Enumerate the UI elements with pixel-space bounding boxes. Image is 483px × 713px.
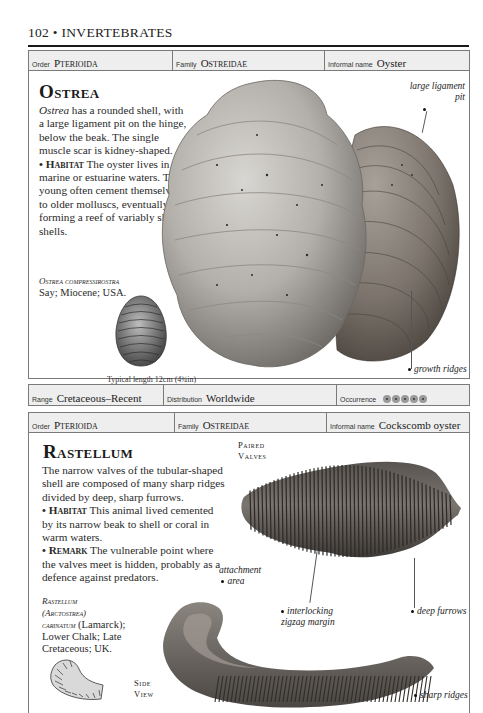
order-cell: Order Pterioida — [29, 51, 173, 70]
description: The narrow valves of the tubular-shaped … — [42, 464, 227, 585]
occurrence-dot — [383, 395, 391, 403]
family-value: Ostreidae — [203, 419, 250, 431]
label-leader-line — [411, 291, 412, 369]
ostrea-specimen-photo — [157, 75, 465, 375]
family-label: Family — [178, 423, 199, 430]
label-pointer-dot — [408, 368, 411, 371]
order-label: Order — [32, 61, 50, 68]
distribution-value: Worldwide — [206, 392, 255, 404]
informal-name-cell: Informal name Oyster — [325, 51, 469, 70]
entry-title: Rastellum — [43, 441, 133, 463]
label-text: attachment — [219, 565, 261, 575]
range-cell: Range Cretaceous–Recent — [29, 385, 164, 405]
specimen-species: Ostrea compressirostra — [39, 276, 119, 286]
order-value: Pterioida — [54, 57, 98, 69]
label-text: growth ridges — [414, 364, 467, 374]
habitat-heading: • Habitat — [39, 158, 84, 170]
occurrence-dot — [419, 395, 427, 403]
label-attachment-area: attachment area — [219, 565, 261, 587]
specimen-author: (Lamarck); — [75, 619, 125, 630]
label-text: large ligament pit — [410, 81, 465, 102]
entry-title: Ostrea — [39, 81, 100, 103]
label-pointer-dot — [411, 610, 414, 613]
entry-rastellum: Order Pterioida Family Ostreidae Informa… — [28, 412, 470, 713]
order-label: Order — [32, 423, 50, 430]
label-text: deep furrows — [417, 606, 467, 616]
label-sharp-ridges: sharp ridges — [414, 690, 468, 701]
order-cell: Order Pterioida — [29, 413, 175, 432]
informal-name-value: Oyster — [377, 57, 406, 69]
specimen-genus: Rastellum — [42, 596, 77, 606]
informal-name-label: Informal name — [328, 61, 373, 68]
label-large-ligament-pit: large ligament pit — [407, 81, 465, 103]
informal-name-label: Informal name — [330, 423, 375, 430]
specimen-details: Lower Chalk; Late Cretaceous; UK. — [42, 631, 121, 654]
occurrence-dot — [410, 395, 418, 403]
label-interlocking-zigzag-margin: interlocking zigzag margin — [281, 606, 335, 628]
occurrence-rating — [383, 389, 428, 405]
label-pointer-dot — [414, 694, 417, 697]
label-text: interlocking — [287, 606, 333, 616]
distribution-cell: Distribution Worldwide — [164, 385, 337, 405]
family-value: Ostreidae — [201, 57, 248, 69]
specimen-subgenus: (Arctostrea) — [42, 608, 86, 618]
range-value: Cretaceous–Recent — [57, 392, 142, 404]
label-growth-ridges: growth ridges — [408, 364, 467, 375]
range-label: Range — [32, 396, 53, 403]
occurrence-dot — [401, 395, 409, 403]
entry-ostrea: Order Pterioida Family Ostreidae Informa… — [28, 50, 470, 379]
classification-row: Order Pterioida Family Ostreidae Informa… — [29, 51, 469, 71]
family-cell: Family Ostreidae — [175, 413, 327, 432]
specimen-caption: Rastellum (Arctostrea) carinatum (Lamarc… — [42, 595, 152, 655]
occurrence-label: Occurrence — [340, 396, 376, 403]
occurrence-cell: Occurrence — [337, 385, 469, 405]
label-text: sharp ridges — [420, 690, 468, 700]
informal-name-value: Cockscomb oyster — [379, 419, 461, 431]
page-header: 102 • INVERTEBRATES — [28, 25, 469, 41]
header-rule — [28, 45, 469, 47]
range-distribution-row: Range Cretaceous–Recent Distribution Wor… — [28, 384, 470, 406]
occurrence-dot — [392, 395, 400, 403]
label-pointer-dot — [281, 610, 284, 613]
typical-length: Typical length 12cm (4¾in) — [107, 375, 196, 384]
distribution-label: Distribution — [167, 396, 202, 403]
label-text: area — [227, 576, 244, 586]
genus-name: Ostrea — [39, 104, 69, 116]
label-deep-furrows: deep furrows — [411, 606, 467, 617]
paired-valves-photo — [236, 453, 469, 563]
informal-name-cell: Informal name Cockscomb oyster — [327, 413, 469, 432]
classification-row: Order Pterioida Family Ostreidae Informa… — [29, 413, 469, 433]
specimen-species: carinatum — [42, 620, 75, 630]
small-rastellum-illustration — [45, 655, 107, 705]
label-leader-line — [414, 558, 415, 608]
label-text: zigzag margin — [281, 617, 335, 627]
description-text: The narrow valves of the tubular-shaped … — [42, 464, 225, 503]
family-cell: Family Ostreidae — [173, 51, 325, 70]
order-value: Pterioida — [54, 419, 98, 431]
habitat-heading: • Habitat — [42, 504, 87, 516]
remark-heading: • Remark — [42, 544, 87, 556]
view-label-line: Paired — [238, 440, 265, 450]
family-label: Family — [176, 61, 197, 68]
label-pointer-dot — [221, 580, 224, 583]
